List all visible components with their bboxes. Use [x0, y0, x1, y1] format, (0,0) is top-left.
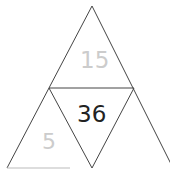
- bottom-left-cell-value: 5: [42, 131, 56, 153]
- center-cell-value: 36: [77, 103, 106, 126]
- inner-right-edge: [92, 88, 134, 168]
- inner-left-edge: [49, 88, 92, 168]
- outer-right-edge: [92, 6, 170, 166]
- triangle-diagram: [0, 0, 170, 169]
- top-cell-value: 15: [80, 49, 109, 72]
